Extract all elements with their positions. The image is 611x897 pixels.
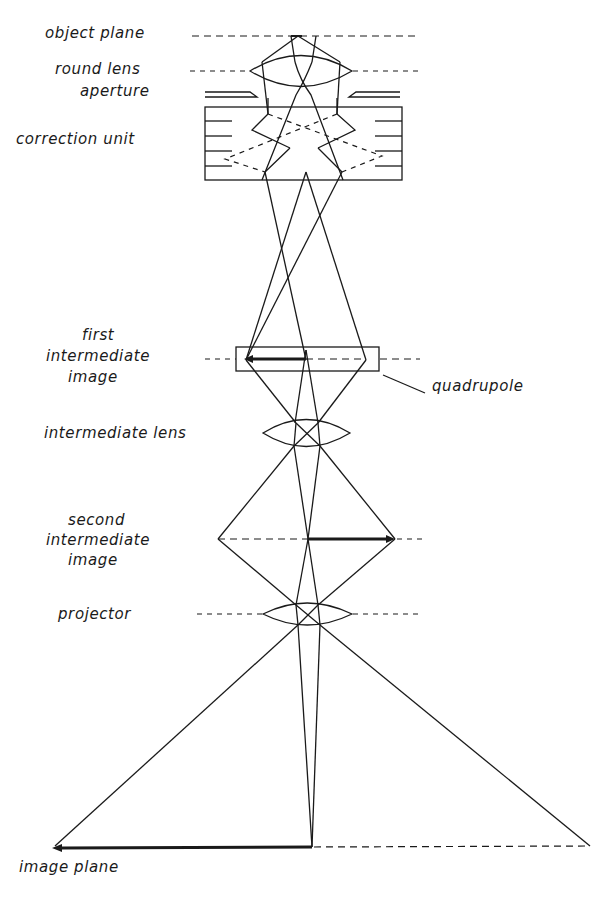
label-first-intermediate-image-line3: image [68,368,118,386]
arrowhead-icon [52,844,62,852]
optical-diagram: object plane round lens aperture correct… [0,0,611,897]
image-plane [52,844,590,852]
label-second-intermediate-image-line1: second [68,511,125,529]
arrowhead-icon [386,535,395,543]
first-intermediate-image [205,355,420,363]
label-projector: projector [57,605,131,623]
label-intermediate-lens: intermediate lens [44,424,186,442]
label-correction-unit: correction unit [16,130,135,148]
label-round-lens: round lens [55,60,140,78]
label-aperture: aperture [80,82,150,100]
aperture [205,92,400,97]
rays-to-image-plane [55,625,590,847]
intermediate-lens [263,420,350,447]
label-second-intermediate-image-line2: intermediate [46,531,150,549]
rays-to-first-image [246,172,366,360]
rays-to-projector [218,539,395,605]
label-first-intermediate-image-line1: first [82,326,115,344]
correction-unit [205,98,402,180]
label-second-intermediate-image-line3: image [68,551,118,569]
label-first-intermediate-image-line2: intermediate [46,347,150,365]
label-object-plane: object plane [45,24,145,42]
rays-to-intermediate-lens [246,350,366,423]
rays-object-to-lens [262,36,343,180]
label-image-plane: image plane [19,858,119,876]
projector-lens [197,603,422,625]
round-lens [190,56,418,87]
label-quadrupole: quadrupole [432,377,524,395]
second-intermediate-image [218,535,425,543]
quadrupole [236,347,425,393]
rays-to-second-image [218,446,395,539]
